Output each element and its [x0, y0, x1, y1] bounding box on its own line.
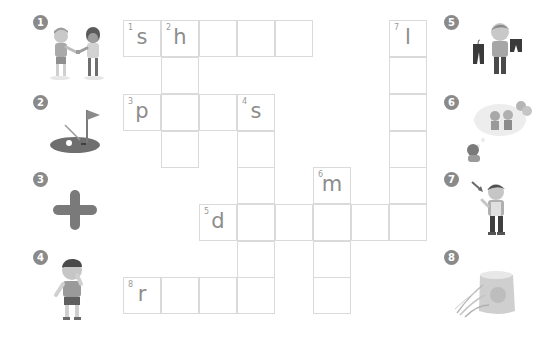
crossword-cell[interactable] — [161, 94, 199, 131]
crossword-cell[interactable] — [389, 94, 427, 131]
crossword-cell[interactable]: 1s — [123, 20, 161, 57]
cell-letter: h — [162, 25, 198, 49]
crossword-cell[interactable] — [199, 20, 237, 57]
cell-letter: d — [200, 209, 236, 233]
crossword-cell[interactable] — [313, 277, 351, 314]
cell-letter: s — [124, 25, 160, 49]
cell-letter: p — [124, 99, 160, 123]
cell-letter: m — [314, 172, 350, 196]
crossword-cell[interactable] — [275, 204, 313, 241]
crossword-cell[interactable]: 5d — [199, 204, 237, 241]
crossword-cell[interactable]: 2h — [161, 20, 199, 57]
crossword-cell[interactable] — [237, 241, 275, 278]
cell-letter: l — [390, 25, 426, 49]
crossword-cell[interactable] — [237, 20, 275, 57]
crossword-cell[interactable] — [237, 167, 275, 204]
crossword-cell[interactable] — [313, 241, 351, 278]
crossword-cell[interactable] — [237, 204, 275, 241]
crossword-cell[interactable]: 3p — [123, 94, 161, 131]
cell-letter: r — [124, 282, 160, 306]
crossword-cell[interactable] — [313, 204, 351, 241]
crossword-cell[interactable]: 4s — [237, 94, 275, 131]
crossword-cell[interactable]: 7l — [389, 20, 427, 57]
crossword-cell[interactable] — [389, 131, 427, 168]
crossword-cell[interactable] — [237, 277, 275, 314]
crossword-cell[interactable] — [199, 277, 237, 314]
crossword-cell[interactable] — [389, 204, 427, 241]
crossword-cell[interactable] — [161, 57, 199, 94]
cell-letter: s — [238, 99, 274, 123]
crossword-cell[interactable] — [389, 167, 427, 204]
crossword-cell[interactable]: 8r — [123, 277, 161, 314]
crossword-cell[interactable] — [275, 20, 313, 57]
crossword-cell[interactable] — [161, 131, 199, 168]
crossword-cell[interactable] — [351, 204, 389, 241]
crossword-cell[interactable] — [199, 94, 237, 131]
crossword-cell[interactable] — [161, 277, 199, 314]
crossword-cell[interactable]: 6m — [313, 167, 351, 204]
crossword-cell[interactable] — [389, 57, 427, 94]
crossword-cell[interactable] — [237, 131, 275, 168]
crossword-grid: 1s2h7l3p4s6m5d8r — [0, 0, 549, 338]
